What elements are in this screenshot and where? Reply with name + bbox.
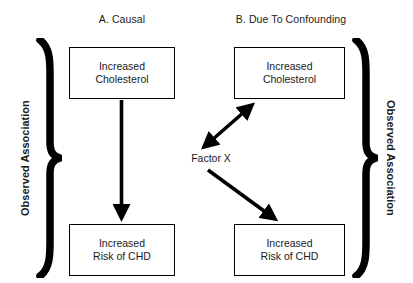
left-observed-association-label: Observed Association <box>16 38 34 278</box>
node-b-increased-risk-chd: Increased Risk of CHD <box>234 224 345 276</box>
arrow-b-factorx-to-chd <box>208 170 275 219</box>
node-b-increased-cholesterol: Increased Cholesterol <box>234 47 345 99</box>
node-a-bottom-line1: Increased <box>99 237 145 251</box>
right-observed-association-label: Observed Association <box>382 38 400 278</box>
node-b-bottom-line1: Increased <box>266 237 312 251</box>
node-b-top-line2: Cholesterol <box>263 73 316 87</box>
node-a-increased-risk-chd: Increased Risk of CHD <box>69 224 175 276</box>
node-a-top-line2: Cholesterol <box>95 73 148 87</box>
panel-a-title: A. Causal <box>62 13 182 25</box>
right-brace-icon <box>352 38 378 278</box>
node-b-top-line1: Increased <box>266 60 312 74</box>
node-a-top-line1: Increased <box>99 60 145 74</box>
node-a-bottom-line2: Risk of CHD <box>93 250 151 264</box>
panel-b-title: B. Due To Confounding <box>205 13 377 25</box>
arrow-b-factorx-cholesterol-bidirectional <box>204 105 252 147</box>
node-b-factor-x-label: Factor X <box>183 152 239 164</box>
node-b-bottom-line2: Risk of CHD <box>261 250 319 264</box>
left-brace-icon <box>36 38 62 278</box>
figure-canvas: A. Causal B. Due To Confounding Increase… <box>0 0 413 283</box>
node-a-increased-cholesterol: Increased Cholesterol <box>69 47 175 99</box>
